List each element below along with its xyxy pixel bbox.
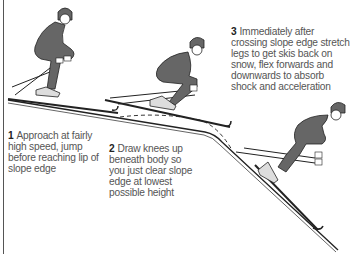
step-2-caption: 2Draw knees up beneath body so you just … — [109, 143, 199, 198]
skier-landing — [236, 102, 345, 230]
step-3-number: 3 — [231, 26, 236, 37]
step-1-text: Approach at fairly high speed, jump befo… — [8, 130, 99, 174]
step-2-number: 2 — [109, 143, 114, 154]
skier-approach — [8, 8, 118, 113]
ski-technique-diagram: 1Approach at fairly high speed, jump bef… — [0, 0, 352, 254]
step-3-text: Immediately after crossing slope edge st… — [231, 26, 350, 92]
step-3-caption: 3Immediately after crossing slope edge s… — [231, 26, 351, 92]
step-1-number: 1 — [8, 130, 13, 141]
step-2-text: Draw knees up beneath body so you just c… — [109, 143, 192, 198]
skier-tuck — [105, 37, 231, 127]
step-1-caption: 1Approach at fairly high speed, jump bef… — [8, 130, 108, 174]
